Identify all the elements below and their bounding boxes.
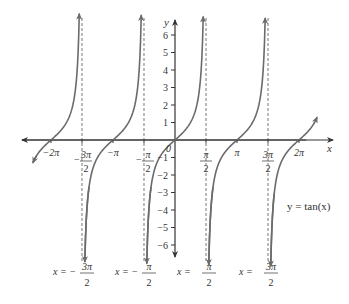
y-tick-label: 5 [163,47,168,58]
svg-text:2: 2 [145,163,150,174]
svg-text:−: − [74,154,80,165]
svg-text:2: 2 [266,163,271,174]
y-tick-label: 2 [163,100,168,111]
x-tick-label: −3π2 [74,149,92,174]
asymptote-label: x = −3π2 [52,261,94,288]
svg-text:2: 2 [83,163,88,174]
y-tick-label: −4 [157,205,168,216]
x-tick-label: −π [107,147,120,158]
svg-text:π: π [145,149,151,160]
y-tick-label: 4 [163,65,168,76]
y-tick-label: −6 [157,240,168,251]
function-label: y = tan(x) [287,200,331,213]
svg-text:x =: x = [176,266,191,277]
y-tick-label: −3 [157,187,168,198]
svg-text:2: 2 [84,277,89,288]
asymptote-label: x = 3π2 [238,261,278,288]
origin-label: 0 [166,143,171,154]
y-tick-label: −5 [157,222,168,233]
tangent-branch [85,15,141,262]
asymptote-label: x = π2 [176,261,216,288]
x-tick-label: π2 [200,149,212,174]
svg-text:x = −: x = − [52,266,76,277]
svg-text:3π: 3π [80,149,92,160]
x-axis-label: x [326,142,332,154]
svg-text:3π: 3π [262,149,274,160]
asymptote-label: x = −π2 [114,261,156,288]
svg-text:2: 2 [269,277,274,288]
x-tick-label: −π2 [136,149,154,174]
x-tick-label: π [234,147,240,158]
svg-text:x = −: x = − [114,266,138,277]
y-tick-label: 6 [163,30,168,41]
svg-text:π: π [203,149,209,160]
x-tick-label: 3π2 [262,149,274,174]
y-axis-label: y [163,16,169,28]
y-tick-label: −2 [157,170,168,181]
x-tick-label: −2π [43,147,61,158]
svg-text:2: 2 [204,163,209,174]
svg-text:x =: x = [238,266,253,277]
x-tick-label: 2π [294,147,305,158]
svg-text:2: 2 [146,277,151,288]
svg-text:−: − [136,154,142,165]
svg-text:3π: 3π [81,261,93,272]
svg-text:2: 2 [207,277,212,288]
y-tick-label: 3 [163,82,168,93]
y-tick-label: 1 [163,117,168,128]
tangent-graph: x = −3π2x = −π2x = π2x = 3π2 654321−1−2−… [0,0,349,304]
